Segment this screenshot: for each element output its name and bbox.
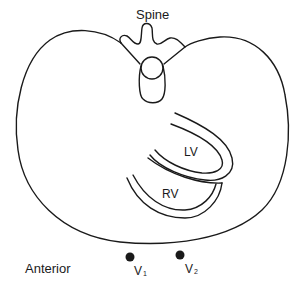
chest-cross-section-diagram: Spine LV RV Anterior V1 V2 <box>0 0 306 293</box>
interventricular-septum <box>148 158 222 183</box>
v1-label-subscript: 1 <box>143 270 147 277</box>
v2-label: V2 <box>185 263 198 275</box>
v2-label-subscript: 2 <box>194 268 198 275</box>
thorax-outline <box>16 31 288 244</box>
spine-label: Spine <box>136 8 169 21</box>
anterior-label: Anterior <box>25 262 71 275</box>
spinal-canal <box>141 57 163 79</box>
electrode-v2 <box>176 251 185 260</box>
electrode-v1 <box>126 253 135 262</box>
vertebral-body <box>139 66 165 103</box>
right-ventricle-label: RV <box>162 188 178 200</box>
spine-left-lamina <box>121 43 140 64</box>
left-ventricle-label: LV <box>184 146 198 158</box>
diagram-drawing <box>0 0 306 293</box>
v2-label-main: V <box>185 262 193 276</box>
v1-label-main: V <box>134 264 142 278</box>
spine-processes <box>120 24 185 65</box>
v1-label: V1 <box>134 265 147 277</box>
